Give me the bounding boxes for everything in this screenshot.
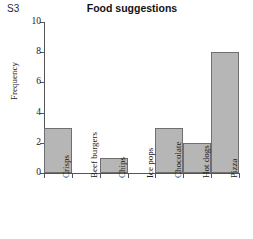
y-tick-label: 4: [36, 106, 41, 119]
x-tick-label: Crisps: [61, 155, 71, 178]
x-axis-tick-labels: CrispsBeef burgersChipsIce popsChocolate…: [44, 178, 239, 239]
slide-id-label: S3: [7, 3, 20, 14]
x-tick-mark: [239, 173, 240, 178]
y-tick-label: 0: [36, 166, 41, 179]
x-tick-label: Chocolate: [173, 142, 183, 179]
x-tick-label: Hot dogs: [201, 145, 211, 178]
y-tick-label: 6: [36, 75, 41, 88]
x-tick-label: Ice pops: [145, 148, 155, 178]
x-tick-label: Chips: [117, 157, 127, 178]
y-tick-label: 2: [36, 136, 41, 149]
bar-chart-figure: S3 Food suggestions Frequency 0246810 Cr…: [0, 0, 253, 239]
x-tick-label: Pizza: [229, 159, 239, 179]
y-tick-label: 10: [32, 15, 42, 28]
y-tick-label: 8: [36, 45, 41, 58]
y-axis-label: Frequency: [9, 45, 19, 117]
x-tick-label: Beef burgers: [89, 132, 99, 178]
bar: [211, 52, 239, 173]
chart-title: Food suggestions: [62, 2, 202, 14]
